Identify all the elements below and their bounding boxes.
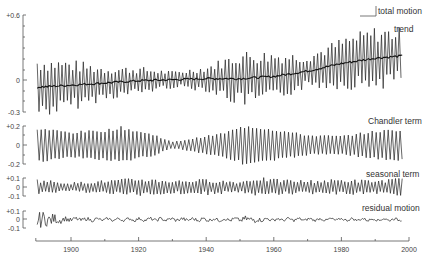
panel-chandler-term: +0.2 0 -0.2 Chandler term — [6, 116, 422, 168]
panel-total-motion: +0.6 0 -0.3 total motion trend — [6, 6, 422, 116]
x-axis: 1900 1920 1940 1960 1980 2000 — [36, 237, 417, 253]
y-tick-label: +0.2 — [6, 123, 20, 130]
x-tick-label: 1920 — [131, 246, 147, 253]
series-label-total-motion: total motion — [378, 6, 422, 16]
y-tick-label: 0 — [16, 77, 20, 84]
panel-residual-motion: +0.1 0 -0.1 residual motion — [6, 203, 420, 232]
y-tick-label: -0.1 — [8, 193, 20, 200]
x-tick-label: 1980 — [334, 246, 350, 253]
x-axis-line — [36, 237, 409, 241]
x-tick-label: 1960 — [266, 246, 282, 253]
y-axis-seasonal — [23, 178, 27, 196]
y-tick-label: +0.1 — [6, 175, 20, 182]
y-axis-residual — [23, 211, 27, 228]
x-tick-label: 2000 — [401, 246, 417, 253]
panel-seasonal-term: +0.1 0 -0.1 seasonal term — [6, 169, 419, 200]
series-label-residual: residual motion — [362, 203, 420, 213]
y-tick-label: 0 — [16, 184, 20, 191]
y-tick-label: +0.6 — [6, 12, 20, 19]
y-tick-label: +0.1 — [6, 208, 20, 215]
seasonal-term-line — [37, 178, 402, 196]
total-motion-leader — [360, 6, 376, 16]
total-motion-line — [37, 27, 401, 114]
chandler-term-line — [37, 126, 402, 164]
series-label-chandler: Chandler term — [368, 116, 422, 126]
polar-motion-chart: +0.6 0 -0.3 total motion trend +0.2 0 -0… — [0, 0, 434, 266]
y-tick-label: -0.2 — [8, 161, 20, 168]
x-tick-label: 1940 — [198, 246, 214, 253]
y-tick-label: 0 — [16, 216, 20, 223]
y-tick-label: 0 — [16, 142, 20, 149]
x-tick-label: 1900 — [63, 246, 79, 253]
y-axis-chandler — [23, 126, 27, 164]
series-label-seasonal: seasonal term — [366, 169, 419, 179]
residual-motion-line — [37, 212, 401, 227]
series-label-trend: trend — [394, 24, 414, 34]
y-axis-total — [23, 15, 27, 112]
x-tick-labels: 1900 1920 1940 1960 1980 2000 — [63, 246, 417, 253]
y-tick-label: -0.1 — [8, 225, 20, 232]
y-tick-label: -0.3 — [8, 109, 20, 116]
